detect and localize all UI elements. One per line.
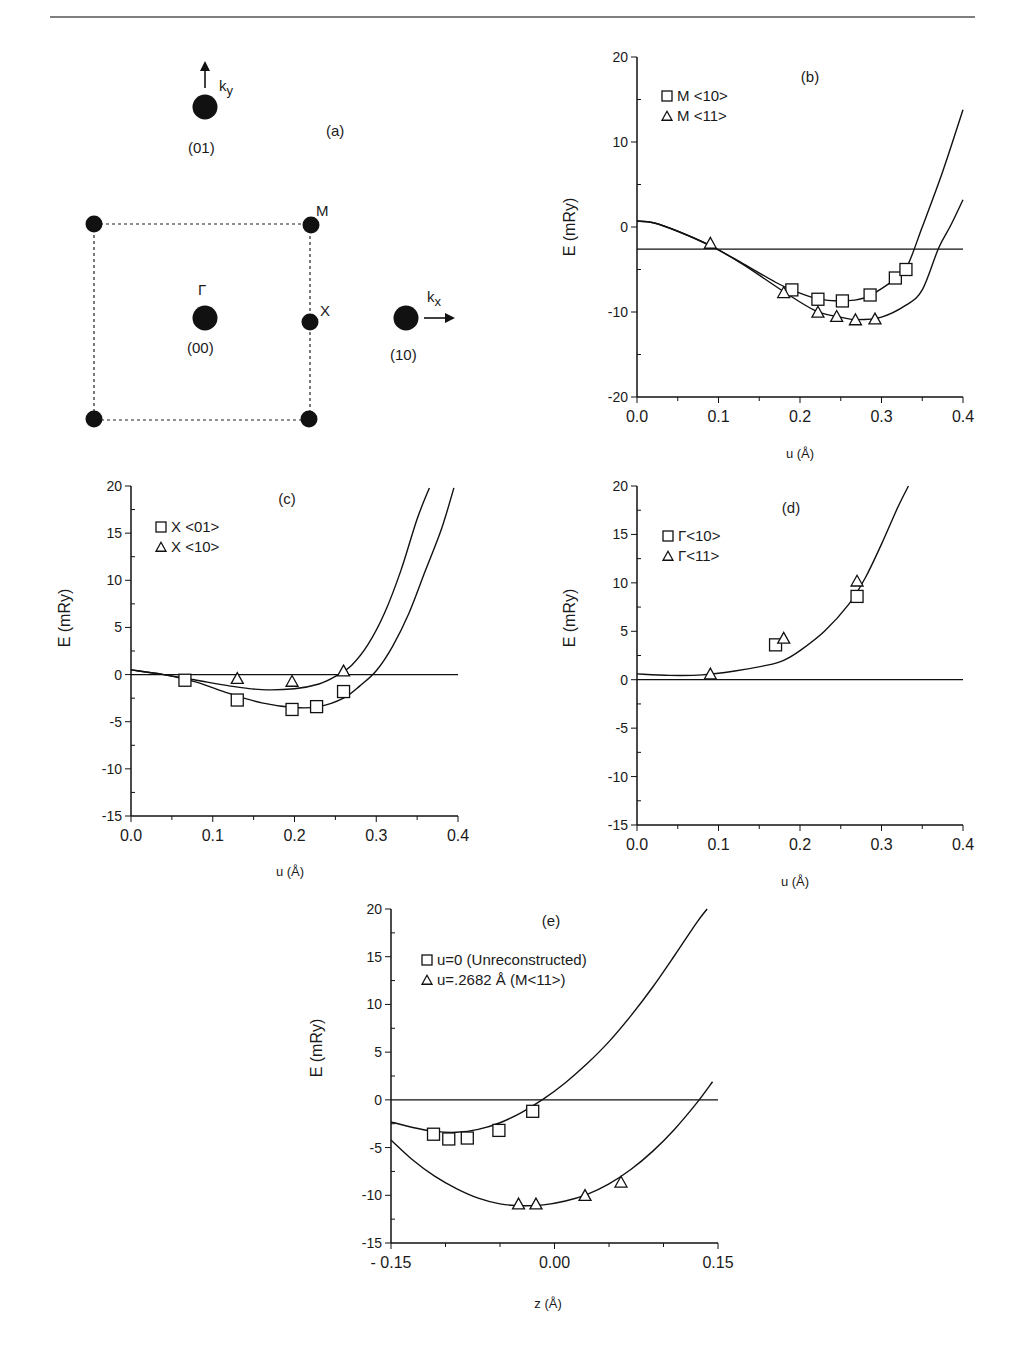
lattice-point-01 [193,95,218,120]
y-tick-label: -10 [608,769,628,785]
y-axis-label: E (mRy) [56,589,73,648]
legend-triangle-icon [422,975,432,984]
y-tick-label: 0 [620,672,628,688]
legend-triangle-icon [156,542,166,551]
legend-label: u=.2682 Å (M<11>) [437,971,566,988]
lattice-point-10 [394,306,419,331]
label-gamma: Γ [198,281,206,298]
lattice-point-corner-tl [86,216,103,233]
panel-e-chart: 20151050-5-10-15- 0.150.000.15z (Å)E (mR… [308,901,734,1311]
lattice-point-00 [193,306,218,331]
data-point-square [851,590,863,602]
x-axis-label: u (Å) [786,446,814,461]
y-tick-label: 20 [612,478,628,494]
legend-label: X <01> [171,518,220,535]
y-tick-label: 0 [620,219,628,235]
data-point-square [900,264,912,276]
y-tick-label: 10 [612,134,628,150]
x-axis-label: z (Å) [534,1296,561,1311]
x-tick-label: 0.3 [365,827,387,844]
legend-label: Γ<10> [678,527,721,544]
y-tick-label: 5 [114,619,122,635]
y-tick-label: -15 [362,1235,382,1251]
y-axis-label: E (mRy) [561,198,578,257]
legend-label: u=0 (Unreconstructed) [437,951,587,968]
data-point-square [428,1128,440,1140]
x-tick-label: 0.4 [447,827,469,844]
x-tick-label: 0.2 [789,836,811,853]
y-tick-label: 15 [106,525,122,541]
kx-arrow-icon [424,313,455,323]
data-point-square [311,701,323,713]
x-tick-label: 0.4 [952,408,974,425]
label-X: X [320,302,330,319]
label-01: (01) [188,139,215,156]
data-point-square [179,674,191,686]
panel-a-label: (a) [326,122,344,139]
lattice-point-X [302,314,319,331]
panel-label: (b) [801,68,819,85]
panel-label: (e) [542,912,560,929]
y-tick-label: 5 [374,1044,382,1060]
x-tick-label: 0.2 [283,827,305,844]
y-tick-label: 0 [114,667,122,683]
legend-square-icon [662,91,672,101]
data-point-square [812,293,824,305]
panel-label: (d) [782,499,800,516]
y-tick-label: 20 [612,49,628,65]
data-point-square [864,289,876,301]
legend-label: M <11> [677,107,727,124]
y-tick-label: -5 [370,1140,383,1156]
data-point-triangle [530,1198,542,1209]
x-tick-label: 0.3 [870,408,892,425]
x-tick-label: 0.00 [539,1254,570,1271]
panel-label: (c) [278,490,296,507]
figure-canvas: ky kx (a) (01) (00) Γ (10) M X 20100-10-… [0,0,1021,1350]
x-tick-label: 0.15 [702,1254,733,1271]
panel-b-chart: 20100-10-200.00.10.20.30.4u (Å)E (mRy)(b… [561,49,974,461]
data-point-triangle [286,675,298,686]
y-tick-label: 15 [366,949,382,965]
fit-curve [637,110,963,301]
y-tick-label: -10 [362,1187,382,1203]
y-tick-label: 15 [612,526,628,542]
y-axis-label: E (mRy) [308,1019,325,1078]
lattice-point-corner-bl [86,411,103,428]
ky-arrow-icon [200,61,210,88]
x-tick-label: 0.0 [626,408,648,425]
y-axis-label: E (mRy) [561,589,578,648]
ky-label: ky [219,77,234,98]
x-tick-label: 0.0 [626,836,648,853]
y-tick-label: 10 [106,572,122,588]
lattice-point-corner-M [303,217,320,234]
fit-curve [637,200,963,320]
y-tick-label: 20 [106,478,122,494]
y-tick-label: -5 [110,714,123,730]
data-point-triangle [513,1198,525,1209]
data-point-square [493,1124,505,1136]
label-10: (10) [390,346,417,363]
label-00: (00) [187,339,214,356]
kx-label: kx [427,288,442,309]
data-point-square [231,694,243,706]
x-tick-label: 0.1 [707,408,729,425]
data-point-triangle [851,575,863,586]
label-M: M [316,202,329,219]
y-tick-label: -10 [102,761,122,777]
data-point-square [836,295,848,307]
x-axis-label: u (Å) [781,874,809,889]
data-point-square [286,703,298,715]
data-point-triangle [338,665,350,676]
x-tick-label: - 0.15 [371,1254,412,1271]
legend-square-icon [663,531,673,541]
legend-triangle-icon [663,551,673,560]
y-tick-label: 5 [620,623,628,639]
legend-label: X <10> [171,538,220,555]
x-tick-label: 0.2 [789,408,811,425]
legend-label: Γ<11> [678,547,720,564]
y-tick-label: -15 [608,817,628,833]
panel-a-diagram: ky kx (a) (01) (00) Γ (10) M X [86,61,456,428]
legend-label: M <10> [677,87,728,104]
x-tick-label: 0.4 [952,836,974,853]
y-tick-label: 20 [366,901,382,917]
